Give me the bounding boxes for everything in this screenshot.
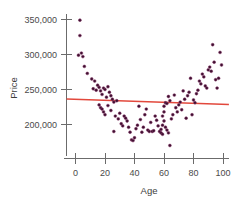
data-point <box>167 95 170 98</box>
data-point <box>168 99 171 102</box>
data-point <box>210 70 213 73</box>
y-tick-label-200000: 200,000 <box>24 120 57 130</box>
data-point <box>182 89 185 92</box>
data-point <box>118 112 121 115</box>
data-point <box>164 126 167 129</box>
y-tick-label-250000: 250,000 <box>24 85 57 95</box>
data-point <box>102 110 105 113</box>
data-point <box>126 120 129 123</box>
x-axis-title: Age <box>141 185 158 196</box>
y-tick-label-350000: 350,000 <box>24 15 57 25</box>
data-point <box>93 80 96 83</box>
data-point <box>163 110 166 113</box>
data-point <box>92 87 95 90</box>
data-point <box>101 93 104 96</box>
data-point <box>111 98 114 101</box>
data-point <box>171 113 174 116</box>
x-tick-label-20: 20 <box>100 168 110 178</box>
data-point <box>99 89 102 92</box>
data-point <box>198 80 201 83</box>
data-point <box>137 105 140 108</box>
data-point <box>129 131 132 134</box>
y-axis-group: 350,000 300,000 250,000 200,000 Price <box>8 14 72 156</box>
data-point <box>176 110 179 113</box>
data-point <box>194 101 197 104</box>
data-point <box>161 124 164 127</box>
data-point <box>199 82 202 85</box>
data-point <box>95 89 98 92</box>
data-point <box>211 43 214 46</box>
data-point <box>117 117 120 120</box>
data-point <box>213 61 216 64</box>
data-point <box>81 55 84 58</box>
data-point <box>149 121 152 124</box>
data-point <box>191 113 194 116</box>
data-point <box>78 34 81 37</box>
data-point <box>192 99 195 102</box>
data-point <box>98 86 101 89</box>
data-point <box>105 96 108 99</box>
x-tick-label-100: 100 <box>215 168 230 178</box>
data-point <box>219 51 222 54</box>
data-point <box>98 103 101 106</box>
chart-canvas: 350,000 300,000 250,000 200,000 Price 0 … <box>0 0 231 201</box>
data-point <box>145 108 148 111</box>
x-tick-label-60: 60 <box>159 168 169 178</box>
data-point <box>180 108 183 111</box>
data-point <box>155 119 158 122</box>
y-axis-tick-labels: 350,000 300,000 250,000 200,000 <box>24 15 57 130</box>
data-point <box>186 94 189 97</box>
data-point <box>115 99 118 102</box>
data-point <box>161 133 164 136</box>
data-point <box>136 124 139 127</box>
data-point <box>139 118 142 121</box>
x-tick-label-0: 0 <box>73 168 78 178</box>
data-point <box>78 19 81 22</box>
data-point <box>114 115 117 118</box>
data-point <box>132 139 135 142</box>
data-point <box>142 126 145 129</box>
data-point <box>152 129 155 132</box>
data-point <box>217 77 220 80</box>
data-point <box>104 113 107 116</box>
x-tick-label-40: 40 <box>129 168 139 178</box>
data-point <box>208 66 211 69</box>
data-point <box>124 117 127 120</box>
data-point <box>90 78 93 81</box>
data-point <box>216 87 219 90</box>
x-axis-tick-labels: 0 20 40 60 80 100 <box>73 168 231 178</box>
data-point <box>109 109 112 112</box>
data-point <box>80 52 83 55</box>
data-point <box>107 104 110 107</box>
data-point <box>161 115 164 118</box>
data-point <box>157 124 160 127</box>
data-point <box>170 117 173 120</box>
data-point <box>177 103 180 106</box>
data-point <box>83 65 86 68</box>
trend-line-segment <box>67 99 229 105</box>
data-point <box>163 120 166 123</box>
data-point <box>185 117 188 120</box>
data-point <box>143 113 146 116</box>
y-tick-label-300000: 300,000 <box>24 50 57 60</box>
data-point <box>195 92 198 95</box>
data-point <box>104 88 107 91</box>
data-point <box>135 127 138 130</box>
y-axis-title: Price <box>8 77 19 99</box>
x-axis-group: 0 20 40 60 80 100 Age <box>64 153 231 196</box>
data-point <box>214 78 217 81</box>
data-point <box>168 144 171 147</box>
data-point <box>101 108 104 111</box>
x-tick-label-80: 80 <box>188 168 198 178</box>
data-point <box>201 73 204 76</box>
data-point <box>166 129 169 132</box>
data-point <box>121 124 124 127</box>
data-point <box>202 75 205 78</box>
data-point <box>163 105 166 108</box>
data-point <box>112 130 115 133</box>
data-point <box>179 101 182 104</box>
scatter-points-layer <box>77 19 223 147</box>
scatter-plot-figure: 350,000 300,000 250,000 200,000 Price 0 … <box>0 0 231 201</box>
data-point <box>107 85 110 88</box>
data-point <box>183 98 186 101</box>
